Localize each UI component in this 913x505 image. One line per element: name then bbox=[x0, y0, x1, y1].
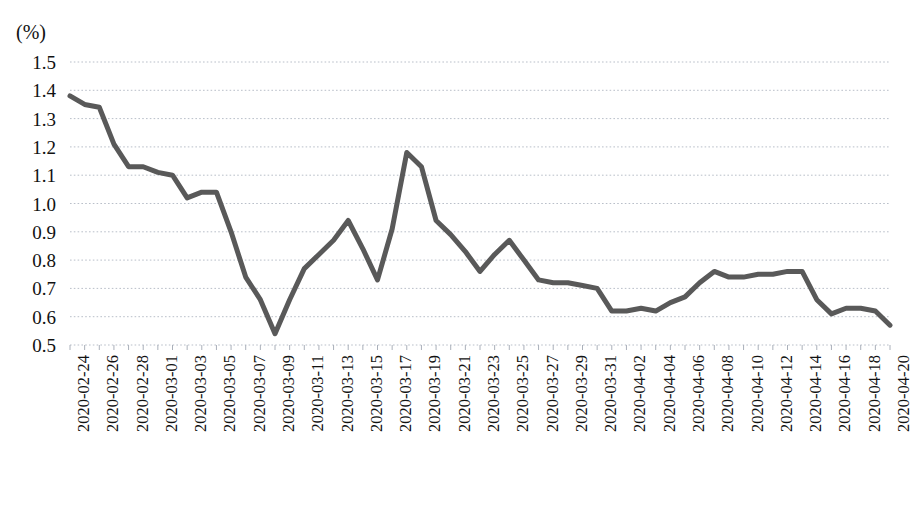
x-tick-label: 2020-04-02 bbox=[632, 355, 649, 432]
series-line bbox=[70, 96, 890, 334]
x-axis: 2020-02-242020-02-262020-02-282020-03-01… bbox=[70, 349, 890, 499]
x-tick-label: 2020-03-09 bbox=[281, 355, 298, 432]
x-tick-label: 2020-03-17 bbox=[398, 355, 415, 432]
y-axis: 1.51.41.31.21.11.00.90.80.70.60.5 bbox=[0, 62, 64, 345]
plot-area bbox=[70, 62, 890, 345]
x-tick-label: 2020-03-01 bbox=[164, 355, 181, 432]
x-tick-label: 2020-03-15 bbox=[369, 355, 386, 432]
x-tick-label: 2020-03-23 bbox=[486, 355, 503, 432]
x-tick-label: 2020-02-26 bbox=[105, 355, 122, 432]
x-tick-label: 2020-03-19 bbox=[427, 355, 444, 432]
x-tick-label: 2020-04-18 bbox=[867, 355, 884, 432]
x-tick-label: 2020-02-28 bbox=[135, 355, 152, 432]
y-tick-label: 0.9 bbox=[32, 222, 56, 241]
y-tick-label: 0.7 bbox=[32, 279, 56, 298]
plot-svg bbox=[70, 62, 890, 345]
y-tick-label: 1.2 bbox=[32, 137, 56, 156]
x-tick-label: 2020-04-16 bbox=[837, 355, 854, 432]
x-tick-label: 2020-04-12 bbox=[779, 355, 796, 432]
y-tick-label: 1.1 bbox=[32, 166, 56, 185]
x-tick-label: 2020-02-24 bbox=[76, 355, 93, 432]
x-tick-label: 2020-03-11 bbox=[310, 355, 327, 431]
x-tick-label: 2020-03-05 bbox=[222, 355, 239, 432]
x-tick-label: 2020-03-29 bbox=[574, 355, 591, 432]
x-tick-label: 2020-03-25 bbox=[515, 355, 532, 432]
x-tick-label: 2020-03-07 bbox=[252, 355, 269, 432]
y-tick-label: 1.5 bbox=[32, 53, 56, 72]
x-tick-label: 2020-04-10 bbox=[750, 355, 767, 432]
y-axis-unit-label: (%) bbox=[16, 22, 46, 42]
x-tick-label: 2020-04-08 bbox=[720, 355, 737, 432]
x-tick-label: 2020-03-27 bbox=[545, 355, 562, 432]
x-tick-label: 2020-03-21 bbox=[457, 355, 474, 432]
y-tick-label: 0.6 bbox=[32, 307, 56, 326]
x-tick-label: 2020-04-20 bbox=[896, 355, 913, 432]
x-tick-label: 2020-03-03 bbox=[193, 355, 210, 432]
gridlines bbox=[70, 62, 890, 345]
x-tick-label: 2020-04-06 bbox=[691, 355, 708, 432]
y-tick-label: 1.3 bbox=[32, 109, 56, 128]
y-tick-label: 1.4 bbox=[32, 81, 56, 100]
y-tick-label: 1.0 bbox=[32, 194, 56, 213]
y-tick-label: 0.8 bbox=[32, 251, 56, 270]
x-tick-label: 2020-04-04 bbox=[662, 355, 679, 432]
x-tick-label: 2020-03-13 bbox=[340, 355, 357, 432]
y-tick-label: 0.5 bbox=[32, 336, 56, 355]
x-tick-label: 2020-04-14 bbox=[808, 355, 825, 432]
x-tick-label: 2020-03-31 bbox=[603, 355, 620, 432]
